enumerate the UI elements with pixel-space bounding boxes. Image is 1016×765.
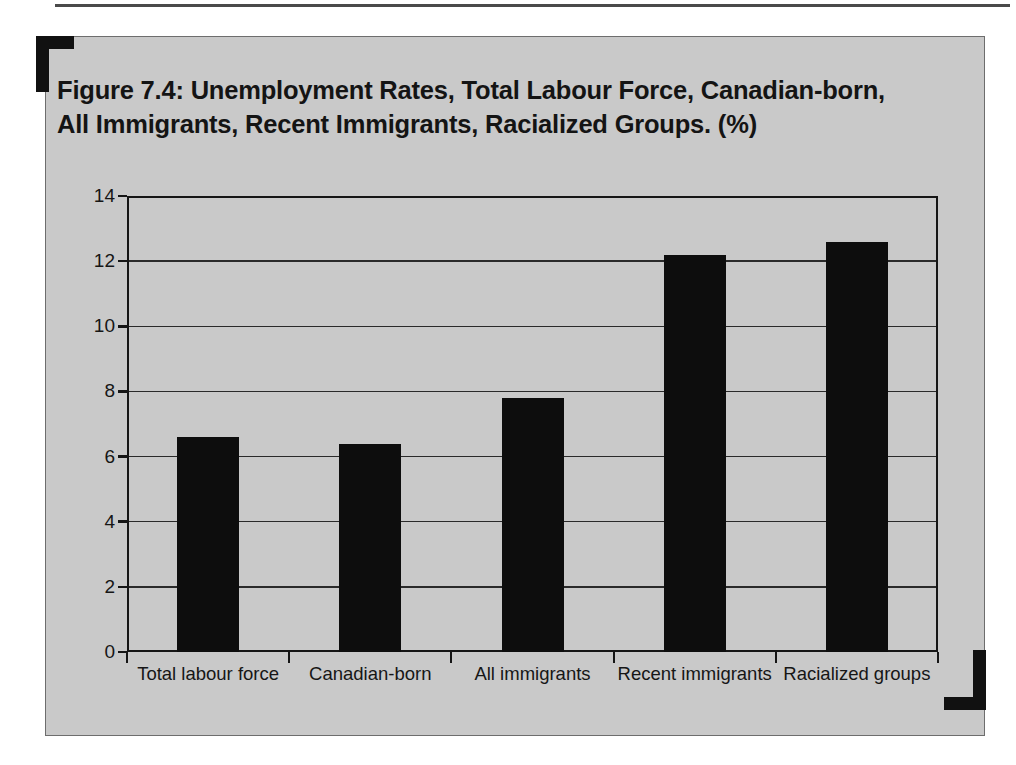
x-axis-tick-label: Racialized groups <box>747 663 967 685</box>
y-axis-tick-mark <box>118 325 127 328</box>
x-axis-tick-mark <box>775 652 777 663</box>
y-axis-tick-mark <box>118 586 127 589</box>
y-axis-tick-mark <box>118 260 127 263</box>
y-axis-tick-label: 14 <box>55 185 115 207</box>
bar <box>177 437 239 652</box>
y-axis-tick-mark <box>118 455 127 458</box>
y-axis-tick-label: 2 <box>55 576 115 598</box>
y-axis-tick-label: 10 <box>55 315 115 337</box>
x-axis-tick-mark <box>937 652 939 663</box>
bars-layer <box>127 196 938 652</box>
y-axis-tick-label: 4 <box>55 511 115 533</box>
bar <box>502 398 564 652</box>
bar <box>664 255 726 652</box>
y-axis-tick-label: 6 <box>55 446 115 468</box>
bar <box>826 242 888 652</box>
x-axis-tick-mark <box>288 652 290 663</box>
bar-chart: 02468101214 Total labour forceCanadian-b… <box>0 0 1016 765</box>
y-axis-tick-mark <box>118 520 127 523</box>
y-axis-tick-mark <box>118 390 127 393</box>
bar <box>339 444 401 652</box>
y-axis-tick-label: 0 <box>55 641 115 663</box>
x-axis-tick-mark <box>613 652 615 663</box>
x-axis-tick-mark <box>126 652 128 663</box>
y-axis-tick-label: 8 <box>55 380 115 402</box>
y-axis-tick-label: 12 <box>55 250 115 272</box>
y-axis-tick-mark <box>118 195 127 198</box>
x-axis-tick-mark <box>450 652 452 663</box>
